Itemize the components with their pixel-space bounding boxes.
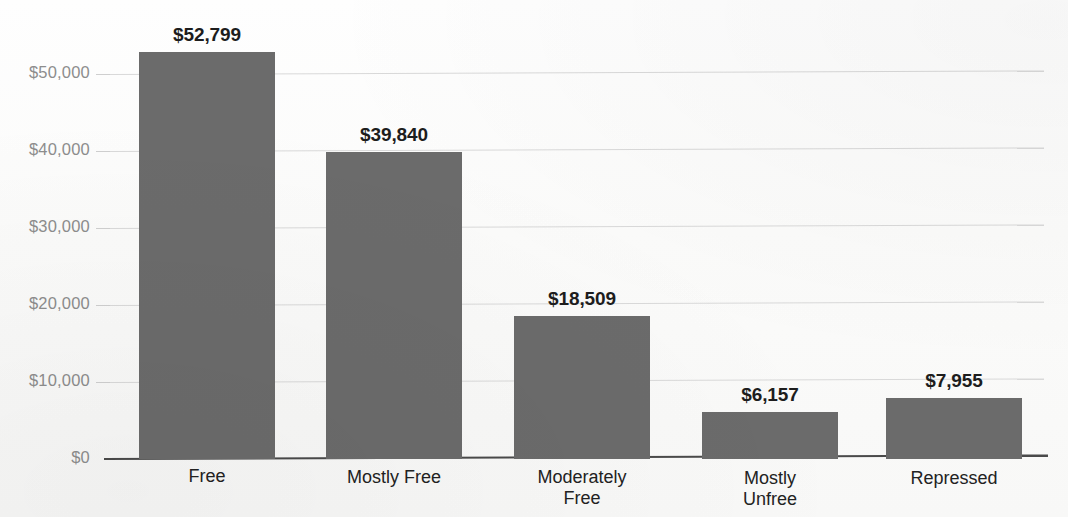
bar-free[interactable] (139, 52, 275, 459)
y-tick-label-50000: $50,000 (2, 63, 90, 82)
x-axis-label-moderately-free: Moderately Free (482, 467, 682, 509)
bar-mostly-unfree[interactable] (702, 412, 838, 459)
bar-value-label-mostly-free: $39,840 (296, 124, 492, 146)
y-tick-label-0: $0 (2, 448, 90, 467)
bar-moderately-free[interactable] (514, 316, 650, 459)
bar-value-label-free: $52,799 (109, 24, 305, 46)
x-axis-label-repressed: Repressed (854, 468, 1054, 489)
plot-area: $0$10,000$20,000$30,000$40,000$50,000 $5… (0, 0, 1068, 517)
bar-value-label-repressed: $7,955 (856, 370, 1052, 392)
x-axis-label-mostly-unfree: Mostly Unfree (670, 468, 870, 510)
y-tick-mark-10000 (96, 382, 110, 383)
y-tick-label-10000: $10,000 (2, 371, 90, 390)
y-tick-mark-40000 (96, 151, 110, 152)
y-tick-mark-30000 (96, 228, 110, 229)
y-tick-label-40000: $40,000 (2, 140, 90, 159)
bar-chart: $0$10,000$20,000$30,000$40,000$50,000 $5… (0, 0, 1068, 517)
bar-repressed[interactable] (886, 398, 1022, 459)
y-tick-mark-20000 (96, 305, 110, 306)
y-tick-mark-50000 (96, 74, 110, 75)
bar-value-label-mostly-unfree: $6,157 (672, 384, 868, 406)
y-tick-label-20000: $20,000 (2, 294, 90, 313)
x-axis-label-free: Free (107, 466, 307, 487)
bar-mostly-free[interactable] (326, 152, 462, 459)
x-axis-label-mostly-free: Mostly Free (294, 467, 494, 488)
bar-value-label-moderately-free: $18,509 (484, 288, 680, 310)
y-tick-label-30000: $30,000 (2, 217, 90, 236)
